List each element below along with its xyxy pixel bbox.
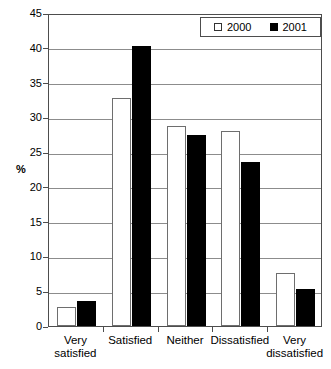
legend-swatch-2001-icon [270, 23, 278, 31]
y-tick-label-35: 35 [18, 78, 42, 89]
bar-2001-cat3 [241, 162, 260, 326]
y-tick-label-0: 0 [18, 321, 42, 332]
y-tick-label-15: 15 [18, 217, 42, 228]
y-tick-label-20: 20 [18, 182, 42, 193]
y-tick-label-30: 30 [18, 112, 42, 123]
y-tick-label-40: 40 [18, 43, 42, 54]
x-category-label-4: Very dissatisfied [259, 334, 331, 359]
chart-legend: 2000 2001 [200, 17, 321, 37]
y-tick-label-25: 25 [18, 147, 42, 158]
x-tick-1 [103, 327, 104, 332]
bar-2000-cat2 [167, 126, 186, 326]
bar-2001-cat0 [77, 301, 96, 326]
gridline-40 [49, 49, 321, 50]
legend-entry-2000: 2000 [214, 22, 251, 33]
legend-label-2001: 2001 [283, 22, 307, 33]
bar-2000-cat3 [221, 131, 240, 326]
bar-chart: % 454035302520151050 Very satisfiedSatis… [0, 0, 331, 369]
x-tick-3 [212, 327, 213, 332]
gridline-30 [49, 119, 321, 120]
legend-label-2000: 2000 [227, 22, 251, 33]
x-tick-4 [267, 327, 268, 332]
bar-2000-cat4 [276, 273, 295, 326]
y-tick-label-5: 5 [18, 286, 42, 297]
plot-area [48, 14, 322, 327]
legend-entry-2001: 2001 [270, 22, 307, 33]
bar-2001-cat2 [187, 135, 206, 326]
y-tick-label-10: 10 [18, 251, 42, 262]
bar-2000-cat0 [57, 307, 76, 326]
bar-2001-cat1 [132, 46, 151, 326]
y-tick-label-45: 45 [18, 8, 42, 19]
bar-2001-cat4 [296, 289, 315, 326]
y-axis-title: % [8, 163, 34, 176]
x-tick-2 [158, 327, 159, 332]
gridline-35 [49, 84, 321, 85]
bar-2000-cat1 [112, 98, 131, 326]
legend-swatch-2000-icon [214, 23, 222, 31]
